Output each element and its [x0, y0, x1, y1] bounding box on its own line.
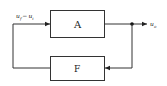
- feedback-diagram: A F uf−ui uo: [0, 0, 167, 86]
- block-a-label: A: [73, 19, 82, 30]
- block-f-label: F: [74, 64, 80, 74]
- input-label: uf−ui: [16, 12, 34, 21]
- output-label: uo: [150, 20, 157, 29]
- feedback-line-left: [13, 24, 51, 68]
- feedback-line-right: [105, 24, 132, 68]
